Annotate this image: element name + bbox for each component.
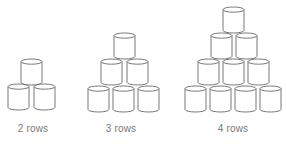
can-icon xyxy=(101,59,122,85)
can-icon xyxy=(248,59,269,85)
can-icon xyxy=(114,33,135,59)
can-icon xyxy=(34,84,55,110)
can-icon xyxy=(8,84,29,110)
can-icon xyxy=(127,59,148,85)
can-icon xyxy=(223,59,244,85)
can-icon xyxy=(235,86,256,112)
stack-2-rows xyxy=(8,59,55,110)
can-icon xyxy=(223,7,244,33)
stack-3-rows xyxy=(88,33,159,112)
stack-4-rows xyxy=(185,7,281,112)
can-icon xyxy=(211,33,232,59)
can-icon xyxy=(260,86,281,112)
can-icon xyxy=(138,86,159,112)
label-4-rows: 4 rows xyxy=(218,123,249,134)
can-icon xyxy=(21,59,42,85)
can-icon xyxy=(210,86,231,112)
label-3-rows: 3 rows xyxy=(106,123,137,134)
can-icon xyxy=(185,86,206,112)
can-icon xyxy=(88,86,109,112)
can-icon xyxy=(198,59,219,85)
label-2-rows: 2 rows xyxy=(18,123,49,134)
can-icon xyxy=(236,33,257,59)
can-icon xyxy=(113,86,134,112)
